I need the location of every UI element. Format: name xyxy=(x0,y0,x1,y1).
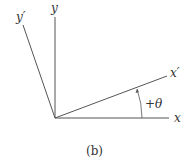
y-prime-axis xyxy=(23,25,55,118)
x-prime-axis-label: x′ xyxy=(170,66,180,80)
figure-caption: (b) xyxy=(86,144,103,158)
rotated-axes-diagram: y y′ x x′ +θ (b) xyxy=(0,0,191,166)
angle-label: +θ xyxy=(145,97,163,111)
angle-arc xyxy=(137,89,142,118)
y-prime-axis-label: y′ xyxy=(15,10,26,24)
x-axis-label: x xyxy=(174,111,181,125)
y-axis-label: y xyxy=(50,1,58,15)
